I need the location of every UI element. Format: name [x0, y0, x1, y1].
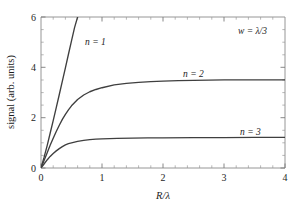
series-line-n2 — [41, 80, 285, 168]
y-ticklabel-0: 0 — [31, 163, 36, 174]
y-ticklabel-6: 6 — [31, 12, 36, 23]
y-axis-ticks — [41, 17, 46, 168]
y-ticklabel-4: 4 — [31, 62, 36, 73]
curve-label-n2: n = 2 — [183, 69, 204, 79]
right-axis-ticks — [281, 30, 286, 168]
x-ticklabel-2: 2 — [161, 172, 166, 183]
top-axis-ticks — [53, 17, 273, 22]
series-line-n3 — [41, 137, 285, 168]
plot-axes — [41, 17, 285, 168]
x-ticklabel-0: 0 — [39, 172, 44, 183]
curve-labels: n = 1 n = 2 n = 3 — [85, 37, 261, 137]
y-tick-labels: 0 2 4 6 — [31, 12, 36, 174]
x-ticklabel-4: 4 — [283, 172, 288, 183]
x-axis-ticks — [41, 164, 285, 169]
curve-label-n1: n = 1 — [85, 37, 106, 47]
signal-vs-radius-line-chart: 0 2 4 6 0 1 2 3 4 R/λ signal (arb. units… — [0, 0, 297, 213]
x-axis-title: R/λ — [155, 190, 170, 201]
x-tick-labels: 0 1 2 3 4 — [39, 172, 288, 183]
y-axis-title: signal (arb. units) — [5, 55, 17, 129]
x-ticklabel-1: 1 — [100, 172, 105, 183]
x-ticklabel-3: 3 — [222, 172, 227, 183]
parameter-annotation: w = λ/3 — [238, 26, 267, 36]
curve-label-n3: n = 3 — [240, 127, 261, 137]
series-line-n1 — [41, 12, 79, 168]
y-ticklabel-2: 2 — [31, 112, 36, 123]
chart-figure: 0 2 4 6 0 1 2 3 4 R/λ signal (arb. units… — [0, 0, 297, 213]
